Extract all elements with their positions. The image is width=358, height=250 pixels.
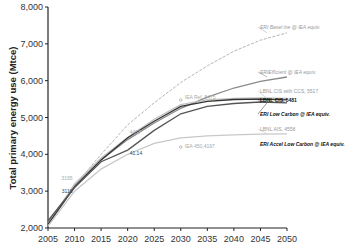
annotation-label: 4457 bbox=[130, 129, 141, 135]
series-label: LBNL CIS with CCS, 5517 bbox=[260, 88, 318, 94]
annotation-label: 3116 bbox=[62, 188, 73, 194]
y-tick-label: 8,000 bbox=[20, 2, 43, 12]
y-tick-label: 7,000 bbox=[20, 39, 43, 49]
y-tick-label: 3,000 bbox=[20, 186, 43, 196]
x-tick-label: 2045 bbox=[250, 234, 270, 244]
series-label: ERI Basel ine @ IEA equiv. bbox=[260, 24, 320, 30]
x-tick-label: 2015 bbox=[91, 234, 111, 244]
annotation-label: IEA 450,4197 bbox=[185, 143, 215, 149]
series-line-5 bbox=[48, 134, 287, 226]
series-line-3 bbox=[48, 99, 287, 224]
series-group bbox=[48, 33, 287, 226]
x-tick-label: 2035 bbox=[197, 234, 217, 244]
x-tick-label: 2005 bbox=[38, 234, 58, 244]
y-tick-label: 6,000 bbox=[20, 76, 43, 86]
chart: 2,0003,0004,0005,0006,0007,0008,00020052… bbox=[0, 0, 358, 250]
y-tick-label: 4,000 bbox=[20, 149, 43, 159]
annotation-label: 41.14 bbox=[130, 150, 143, 156]
x-tick-label: 2040 bbox=[224, 234, 244, 244]
x-tick-label: 2030 bbox=[171, 234, 191, 244]
annotation-marker bbox=[179, 146, 182, 149]
series-label: ERI Low Carbon @ IEA equiv. bbox=[260, 111, 330, 117]
annotation-label: 3195 bbox=[61, 175, 72, 181]
series-label: ERIEfficient @ IEA equiv. bbox=[260, 69, 316, 75]
x-tick-label: 2020 bbox=[118, 234, 138, 244]
series-label: LBNL AIS, 4558 bbox=[260, 126, 296, 132]
series-label: ERI Accel Low Carbon @ IEA equiv. bbox=[260, 141, 345, 147]
y-axis-label: Total primary energy use (Mtce) bbox=[7, 47, 18, 190]
series-line-0 bbox=[48, 33, 287, 223]
annotation-label: IEA Ref, 5475 bbox=[185, 94, 216, 100]
series-line-4 bbox=[48, 102, 287, 221]
series-line-2 bbox=[48, 98, 287, 224]
labels-group: ERI Basel ine @ IEA equiv.ERIEfficient @… bbox=[61, 24, 344, 194]
x-tick-label: 2010 bbox=[65, 234, 85, 244]
x-tick-label: 2025 bbox=[144, 234, 164, 244]
y-tick-label: 2,000 bbox=[20, 223, 43, 233]
x-tick-label: 2050 bbox=[277, 234, 297, 244]
y-tick-label: 5,000 bbox=[20, 113, 43, 123]
annotation-marker bbox=[179, 99, 182, 102]
series-label: LBNL CIS, 5481 bbox=[260, 97, 297, 103]
